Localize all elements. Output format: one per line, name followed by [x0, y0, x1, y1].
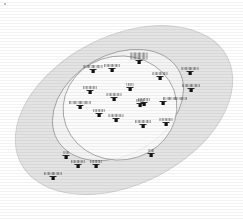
artifact-fleck — [4, 3, 6, 5]
ellipse-layer — [0, 0, 243, 219]
diagram-canvas — [0, 0, 243, 219]
